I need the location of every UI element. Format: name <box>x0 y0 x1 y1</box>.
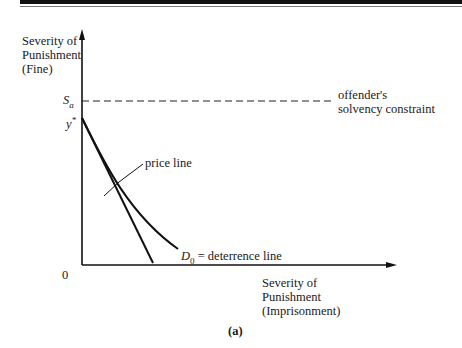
x-axis-label-line-2: Punishment <box>262 290 340 304</box>
deterrence-line-label: D0 = deterrence line <box>181 249 282 268</box>
ystar-label: y* <box>66 113 76 131</box>
deterrence-label-rest: = deterrence line <box>195 249 282 263</box>
sa-label-sub: a <box>69 100 74 110</box>
x-axis-arrow-icon <box>386 262 397 268</box>
constraint-label-line-2: solvency constraint <box>338 102 435 116</box>
sa-label: Sa <box>63 93 74 112</box>
solvency-constraint-label: offender's solvency constraint <box>338 88 435 116</box>
y-axis-label-line-3: (Fine) <box>22 62 81 76</box>
price-line-label: price line <box>145 156 192 170</box>
y-axis-label: Severity of Punishment (Fine) <box>22 34 81 76</box>
x-axis-label: Severity of Punishment (Imprisonment) <box>262 276 340 318</box>
y-axis-label-line-2: Punishment <box>22 48 81 62</box>
origin-label: 0 <box>62 268 68 282</box>
x-axis-label-line-3: (Imprisonment) <box>262 304 340 318</box>
figure-caption: (a) <box>228 324 243 338</box>
ystar-label-sup: * <box>72 115 77 125</box>
x-axis-label-line-1: Severity of <box>262 276 340 290</box>
deterrence-curve <box>82 118 178 249</box>
constraint-label-line-1: offender's <box>338 88 435 102</box>
deterrence-label-main: D <box>181 249 190 263</box>
y-axis-label-line-1: Severity of <box>22 34 81 48</box>
